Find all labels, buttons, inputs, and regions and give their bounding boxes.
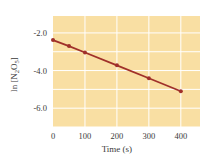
y-tick-label: -6.0 bbox=[34, 103, 47, 113]
x-tick-label: 400 bbox=[174, 131, 187, 141]
x-tick-label: 200 bbox=[111, 131, 124, 141]
y-tick-label: -2.0 bbox=[34, 28, 47, 38]
x-axis-ticks: 0100200300400 bbox=[51, 131, 187, 141]
data-point bbox=[179, 89, 183, 93]
x-tick-label: 0 bbox=[51, 131, 55, 141]
x-tick-label: 100 bbox=[79, 131, 92, 141]
y-axis-label: ln [N2O5] bbox=[9, 57, 20, 92]
x-tick-label: 300 bbox=[142, 131, 155, 141]
data-point bbox=[51, 38, 55, 42]
data-point bbox=[147, 76, 151, 80]
x-axis-label: Time (s) bbox=[102, 144, 132, 154]
chart: -2.0-4.0-6.0 0100200300400 Time (s) ln [… bbox=[0, 0, 209, 159]
y-axis-ticks: -2.0-4.0-6.0 bbox=[34, 28, 47, 113]
data-point bbox=[115, 63, 119, 67]
y-tick-label: -4.0 bbox=[34, 66, 47, 76]
data-point bbox=[83, 50, 87, 54]
data-point bbox=[67, 44, 71, 48]
